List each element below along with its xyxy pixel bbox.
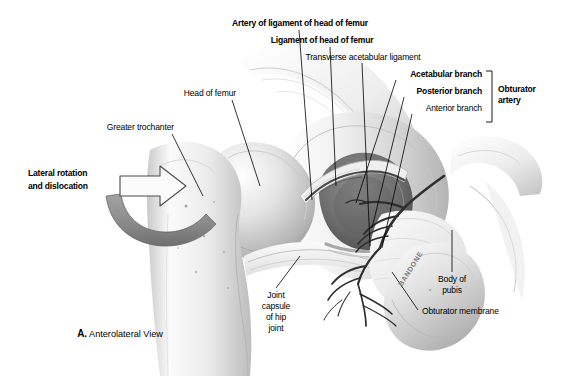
label-body-of-pubis-line1: Body of: [415, 274, 489, 285]
figure-caption-prefix: A.: [77, 328, 87, 339]
figure-caption-text: Anterolateral View: [87, 328, 163, 339]
label-joint-capsule-line2: capsule: [244, 301, 307, 312]
anatomy-figure: Artery of ligament of head of femur Liga…: [0, 0, 561, 376]
label-acetabular-branch: Acetabular branch: [309, 69, 482, 80]
figure-caption: A. Anterolateral View: [62, 317, 163, 350]
label-lateral-rotation-line2: and dislocation: [28, 181, 88, 192]
label-posterior-branch: Posterior branch: [309, 86, 482, 97]
label-anterior-branch: Anterior branch: [309, 103, 482, 114]
label-obturator-membrane: Obturator membrane: [422, 306, 499, 317]
label-layer: Artery of ligament of head of femur Liga…: [0, 0, 561, 376]
label-obturator-artery-line1: Obturator: [498, 84, 536, 95]
label-joint-capsule-line3: of hip: [244, 312, 307, 323]
label-joint-capsule-line4: joint: [244, 323, 307, 334]
label-artery-of-ligament-of-head-of-femur: Artery of ligament of head of femur: [188, 18, 411, 29]
label-greater-trochanter: Greater trochanter: [44, 122, 174, 133]
label-lateral-rotation-line1: Lateral rotation: [28, 168, 87, 179]
label-head-of-femur: Head of femur: [110, 88, 236, 99]
label-transverse-acetabular-ligament: Transverse acetabular ligament: [256, 52, 470, 63]
label-joint-capsule-line1: Joint: [244, 290, 307, 301]
label-ligament-of-head-of-femur: Ligament of head of femur: [210, 35, 433, 46]
label-body-of-pubis-line2: pubis: [415, 285, 489, 296]
label-obturator-artery-line2: artery: [498, 95, 521, 106]
